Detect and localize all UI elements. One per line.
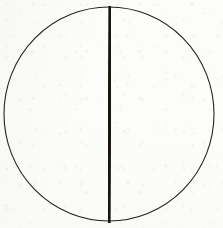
line-drawing [0,0,223,228]
vertical-diameter-line [109,6,110,223]
figure-canvas: Circle bisected by a vertical diameter [0,0,223,228]
